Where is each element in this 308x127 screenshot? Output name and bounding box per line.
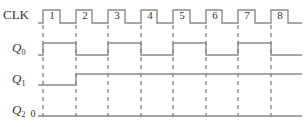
clock-pulse-number: 6: [209, 9, 221, 21]
clock-pulse-number: 3: [111, 9, 123, 21]
signal-label-clk: CLK: [3, 7, 29, 23]
signal-label-q1: Q1: [12, 71, 25, 88]
clock-pulse-number: 7: [241, 9, 253, 21]
clock-pulse-number: 4: [144, 9, 156, 21]
q1-waveform: [38, 74, 302, 85]
signal-label-q0: Q0: [12, 40, 25, 57]
clk-waveform: [38, 10, 302, 23]
clock-pulse-number: 5: [176, 9, 188, 21]
clock-pulse-number: 1: [46, 9, 58, 21]
q0-waveform: [38, 43, 302, 55]
clock-pulse-number: 8: [274, 9, 286, 21]
q2-initial-value: 0: [27, 108, 39, 119]
clock-edge-guides: [43, 25, 271, 118]
clock-pulse-number: 2: [79, 9, 91, 21]
signal-label-q2: Q2: [12, 102, 25, 119]
